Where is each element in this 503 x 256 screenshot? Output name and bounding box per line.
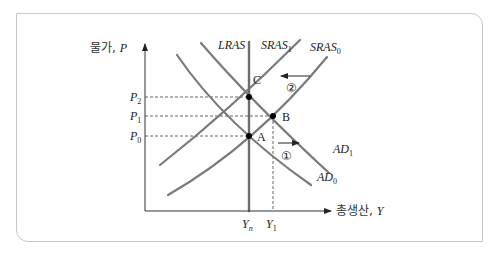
- ad0-label: AD0: [316, 170, 337, 186]
- point-a: [246, 133, 252, 139]
- point-b-label: B: [282, 110, 290, 124]
- p1-label: P1: [129, 109, 141, 125]
- sras1-curve: [160, 40, 300, 165]
- dashed-guides: [145, 97, 273, 211]
- p2-label: P2: [129, 90, 141, 106]
- sras0-label: SRAS0: [310, 40, 341, 56]
- yn-label: Yn: [242, 217, 253, 233]
- point-a-label: A: [257, 130, 266, 144]
- p0-label: P0: [129, 129, 141, 145]
- y1-label: Y1: [266, 217, 277, 233]
- x-axis-label: 총생산, Y: [336, 204, 385, 218]
- shift-2-label: ②: [286, 81, 297, 95]
- shift-1-label: ①: [281, 149, 292, 163]
- ad-as-diagram: C B A 물가, P 총생산, Y P2 P1 P0 Yn Y1 LRAS S…: [0, 0, 503, 256]
- sras1-label: SRAS1: [261, 38, 292, 54]
- lras-label: LRAS: [217, 38, 245, 52]
- sras0-curve: [168, 57, 327, 195]
- ad1-label: AD1: [332, 142, 353, 158]
- ad0-curve: [177, 55, 311, 185]
- point-c: [246, 94, 252, 100]
- point-b: [270, 113, 276, 119]
- point-c-label: C: [253, 73, 261, 87]
- y-axis-label: 물가, P: [90, 41, 128, 55]
